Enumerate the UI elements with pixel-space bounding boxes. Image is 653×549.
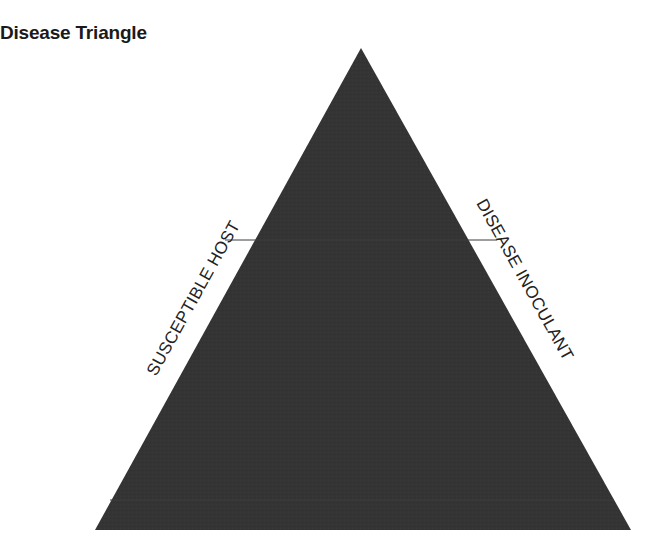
triangle-shape (95, 48, 631, 530)
disease-triangle-diagram: SUSCEPTIBLE HOST DISEASE INOCULANT (0, 0, 653, 549)
